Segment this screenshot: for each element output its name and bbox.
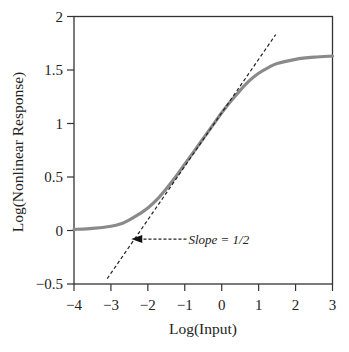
x-tick-label: −4 [66,297,82,313]
y-tick-label: −0.5 [36,276,63,292]
y-tick-label: 0 [56,223,64,239]
response-curve [74,56,333,229]
y-tick-label: 2 [56,9,64,25]
slope-annotation: Slope = 1/2 [188,232,249,247]
x-tick-label: 1 [255,297,263,313]
x-tick-label: 0 [218,297,226,313]
y-tick-label: 0.5 [44,169,63,185]
y-tick-label: 1.5 [44,62,63,78]
x-tick-label: −3 [103,297,119,313]
chart: −4−3−2−10123 −0.500.511.52 Slope = 1/2 L… [0,0,349,352]
x-axis-ticks: −4−3−2−10123 [66,284,336,313]
x-tick-label: 2 [292,297,300,313]
x-axis-title: Log(Input) [169,320,237,338]
y-axis-ticks: −0.500.511.52 [36,9,74,293]
x-tick-label: −1 [177,297,193,313]
x-tick-label: −2 [140,297,156,313]
y-axis-title: Log(Nonlinear Response) [9,72,27,233]
annotation-layer: Slope = 1/2 [131,232,250,247]
y-tick-label: 1 [56,116,64,132]
x-tick-label: 3 [329,297,337,313]
